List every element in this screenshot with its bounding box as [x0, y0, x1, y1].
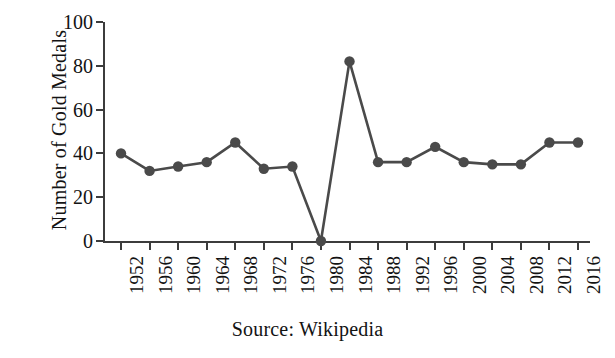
- data-point: [573, 137, 583, 147]
- data-point: [373, 157, 383, 167]
- y-tick-label: 100: [63, 12, 93, 32]
- data-point: [287, 161, 297, 171]
- y-tick-mark: [96, 21, 103, 23]
- x-tick-mark: [463, 243, 465, 250]
- series-line: [121, 61, 578, 241]
- x-tick-label: 1984: [356, 256, 375, 294]
- x-tick-label: 2008: [527, 256, 546, 294]
- x-tick-label: 1968: [241, 256, 260, 294]
- x-tick-label: 1960: [184, 256, 203, 294]
- x-tick-label: 1964: [213, 256, 232, 294]
- x-tick-mark: [206, 243, 208, 250]
- x-tick-mark: [434, 243, 436, 250]
- x-tick-mark: [120, 243, 122, 250]
- x-tick-label: 1976: [298, 256, 317, 294]
- x-tick-label: 1956: [156, 256, 175, 294]
- x-tick-label: 2004: [498, 256, 517, 294]
- x-tick-mark: [149, 243, 151, 250]
- x-tick-mark: [377, 243, 379, 250]
- data-point: [459, 157, 469, 167]
- data-point: [516, 159, 526, 169]
- x-tick-label: 1992: [413, 256, 432, 294]
- x-tick-mark: [577, 243, 579, 250]
- data-point: [344, 56, 354, 66]
- x-tick-mark: [234, 243, 236, 250]
- data-point: [116, 148, 126, 158]
- x-tick-mark: [349, 243, 351, 250]
- data-point: [430, 142, 440, 152]
- x-tick-mark: [548, 243, 550, 250]
- x-tick-label: 1980: [327, 256, 346, 294]
- plot-area: 020406080100 195219561960196419681972197…: [103, 22, 590, 243]
- x-tick-label: 1972: [270, 256, 289, 294]
- y-tick-label: 40: [73, 143, 93, 163]
- y-tick-mark: [96, 65, 103, 67]
- data-point: [401, 157, 411, 167]
- x-tick-label: 2012: [555, 256, 574, 294]
- x-tick-mark: [491, 243, 493, 250]
- y-tick-label: 60: [73, 100, 93, 120]
- data-point: [316, 236, 326, 246]
- chart-figure: Number of Gold Medals 020406080100 19521…: [0, 0, 615, 358]
- data-point: [259, 164, 269, 174]
- data-point: [173, 161, 183, 171]
- y-tick-label: 20: [73, 187, 93, 207]
- source-caption: Source: Wikipedia: [0, 318, 615, 341]
- y-tick-label: 0: [83, 231, 93, 251]
- y-tick-mark: [96, 109, 103, 111]
- x-tick-label: 2016: [584, 256, 603, 294]
- line-series: [103, 22, 590, 243]
- x-tick-label: 1952: [127, 256, 146, 294]
- x-tick-mark: [177, 243, 179, 250]
- data-point: [487, 159, 497, 169]
- data-point: [544, 137, 554, 147]
- data-point: [201, 157, 211, 167]
- x-tick-mark: [291, 243, 293, 250]
- x-tick-mark: [520, 243, 522, 250]
- y-tick-mark: [96, 240, 103, 242]
- y-axis-title: Number of Gold Medals: [42, 10, 76, 250]
- x-tick-label: 1996: [441, 256, 460, 294]
- y-tick-mark: [96, 196, 103, 198]
- x-tick-mark: [406, 243, 408, 250]
- x-tick-label: 2000: [470, 256, 489, 294]
- x-tick-label: 1988: [384, 256, 403, 294]
- x-tick-mark: [263, 243, 265, 250]
- y-tick-mark: [96, 152, 103, 154]
- data-point: [144, 166, 154, 176]
- y-tick-label: 80: [73, 56, 93, 76]
- data-point: [230, 137, 240, 147]
